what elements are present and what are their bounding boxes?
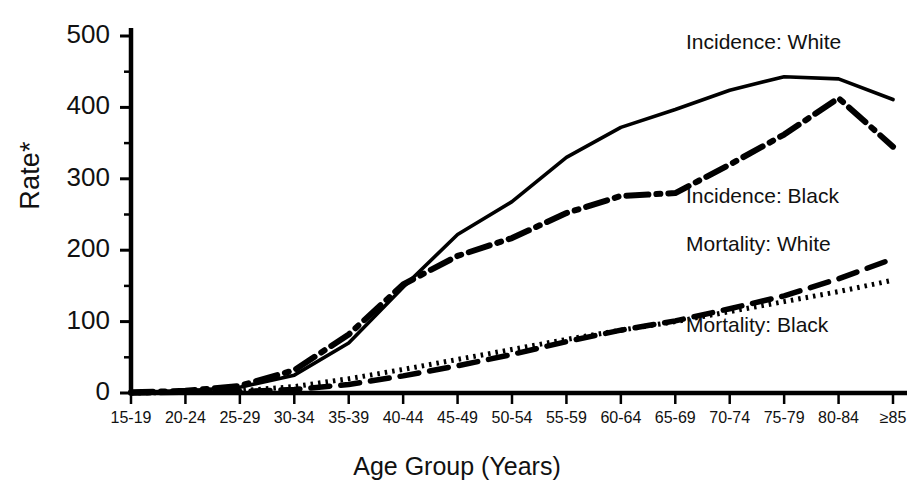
series-label-mortality-black: Mortality: Black <box>686 313 828 337</box>
series-label-mortality-white: Mortality: White <box>686 232 831 256</box>
axis-lines <box>120 28 907 404</box>
chart-figure: Rate* Age Group (Years) 0100200300400500… <box>0 0 914 501</box>
series-label-incidence-black: Incidence: Black <box>686 184 839 208</box>
series-label-incidence-white: Incidence: White <box>686 30 841 54</box>
